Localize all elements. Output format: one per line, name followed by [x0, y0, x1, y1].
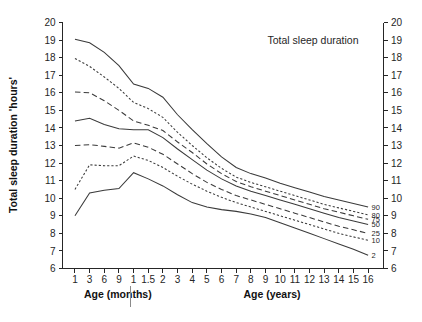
chart-canvas: 2019181716151413121110987620191817161514…: [0, 0, 422, 322]
x-axis-title-years: Age (years): [243, 288, 300, 300]
x-tick-label: 14: [333, 274, 345, 285]
percentile-curve-10: [75, 156, 368, 240]
percentile-label-50: 50: [372, 220, 380, 229]
x-tick-label: 6: [219, 274, 225, 285]
axis-frame: [63, 23, 384, 269]
y-tick-label-left: 15: [44, 105, 56, 116]
x-tick-label: 4: [189, 274, 195, 285]
y-tick-label-right: 17: [391, 70, 403, 81]
y-tick-label-left: 18: [44, 52, 56, 63]
x-tick-label: 9: [116, 274, 122, 285]
x-tick-label: 1.5: [141, 274, 155, 285]
x-axis-title-months: Age (months): [84, 288, 152, 300]
x-tick-label: 1: [131, 274, 137, 285]
x-tick-label: 1: [72, 274, 78, 285]
percentile-label-2: 2: [372, 251, 376, 260]
percentile-label-10: 10: [372, 236, 380, 245]
percentile-curve-2: [75, 173, 368, 256]
y-axis-title: Total sleep duration 'hours': [7, 77, 19, 213]
y-tick-label-left: 8: [50, 228, 56, 239]
y-tick-label-right: 13: [391, 140, 403, 151]
y-tick-label-left: 16: [44, 87, 56, 98]
x-tick-label: 3: [175, 274, 181, 285]
percentile-curve-90: [75, 39, 368, 207]
x-tick-label: 10: [275, 274, 287, 285]
x-tick-label: 12: [304, 274, 316, 285]
x-tick-label: 13: [319, 274, 331, 285]
y-tick-label-right: 18: [391, 52, 403, 63]
y-tick-label-right: 19: [391, 35, 403, 46]
y-tick-label-left: 9: [50, 210, 56, 221]
y-tick-label-right: 11: [391, 175, 402, 186]
y-tick-label-right: 9: [391, 210, 397, 221]
y-tick-label-right: 7: [391, 246, 397, 257]
x-tick-label: 8: [248, 274, 254, 285]
x-tick-label: 15: [348, 274, 360, 285]
x-tick-label: 16: [363, 274, 375, 285]
y-tick-label-left: 14: [44, 123, 56, 134]
y-tick-label-left: 6: [50, 263, 56, 274]
percentile-curve-75: [75, 92, 368, 219]
y-tick-label-left: 11: [45, 175, 56, 186]
y-tick-label-left: 12: [44, 158, 56, 169]
percentile-curve-80: [75, 59, 368, 215]
chart-title: Total sleep duration: [267, 34, 358, 46]
y-tick-label-right: 10: [391, 193, 403, 204]
y-tick-label-left: 20: [44, 17, 56, 28]
y-tick-label-right: 8: [391, 228, 397, 239]
x-tick-label: 9: [263, 274, 269, 285]
y-tick-label-left: 19: [44, 35, 56, 46]
y-tick-label-left: 7: [50, 246, 56, 257]
y-tick-label-right: 14: [391, 123, 403, 134]
y-tick-label-right: 12: [391, 158, 403, 169]
y-tick-label-left: 10: [44, 193, 56, 204]
x-tick-label: 5: [204, 274, 210, 285]
x-tick-label: 2: [160, 274, 166, 285]
x-tick-label: 11: [290, 274, 301, 285]
y-tick-label-right: 6: [391, 263, 397, 274]
y-tick-label-right: 20: [391, 17, 403, 28]
y-tick-label-right: 16: [391, 87, 403, 98]
y-tick-label-right: 15: [391, 105, 403, 116]
x-tick-label: 6: [101, 274, 107, 285]
y-tick-label-left: 17: [44, 70, 56, 81]
x-tick-label: 7: [233, 274, 239, 285]
y-tick-label-left: 13: [44, 140, 56, 151]
sleep-duration-chart: 2019181716151413121110987620191817161514…: [0, 0, 422, 322]
x-tick-label: 3: [87, 274, 93, 285]
